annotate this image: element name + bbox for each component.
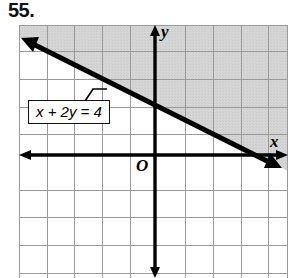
y-axis-arrow-down [150,267,160,278]
problem-number: 55. [8,0,34,22]
x-axis-arrow-left [19,150,31,160]
y-axis-label: y [161,22,169,42]
graph-figure: 55. [0,0,298,278]
equation-label: x + 2y = 4 [28,100,110,124]
origin-label: O [136,156,148,176]
equation-label-text: x + 2y = 4 [36,103,102,120]
x-axis-label: x [270,132,279,152]
coordinate-grid [19,25,288,278]
graph-svg [19,25,288,278]
